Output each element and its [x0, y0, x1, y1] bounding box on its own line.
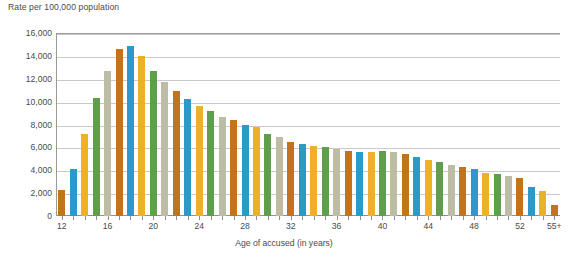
bar — [368, 152, 375, 216]
bar — [196, 106, 203, 216]
x-axis-tick-label: 55+ — [547, 221, 562, 231]
bar — [207, 111, 214, 216]
bar — [402, 154, 409, 216]
x-axis-tick — [153, 216, 154, 220]
bar — [104, 71, 111, 216]
bar — [413, 157, 420, 216]
bar-series — [56, 33, 560, 216]
x-axis-tick — [314, 216, 315, 220]
x-axis-tick — [497, 216, 498, 220]
x-axis-tick-label: 52 — [515, 221, 525, 231]
y-axis-tick-label: 4,000 — [30, 165, 52, 175]
x-axis-tick — [360, 216, 361, 220]
x-axis-tick — [234, 216, 235, 220]
x-axis-tick — [325, 216, 326, 220]
x-axis-tick — [199, 216, 200, 220]
x-axis-tick — [73, 216, 74, 220]
x-axis-tick-label: 36 — [332, 221, 342, 231]
bar — [425, 160, 432, 216]
x-axis-tick — [142, 216, 143, 220]
x-axis-tick — [291, 216, 292, 220]
x-axis-tick — [96, 216, 97, 220]
x-axis-tick — [474, 216, 475, 220]
bar — [93, 98, 100, 216]
bar — [264, 134, 271, 216]
bar — [173, 91, 180, 216]
bar — [356, 152, 363, 216]
bar — [161, 82, 168, 216]
bar — [551, 205, 558, 216]
x-axis-tick — [245, 216, 246, 220]
x-axis-tick — [543, 216, 544, 220]
x-axis-tick — [417, 216, 418, 220]
x-axis-tick — [211, 216, 212, 220]
x-axis-tick-label: 40 — [378, 221, 388, 231]
x-axis-ticks — [56, 216, 560, 220]
bar — [184, 99, 191, 216]
x-axis-tick-label: 48 — [469, 221, 479, 231]
x-axis-tick — [302, 216, 303, 220]
y-axis-tick-label: 8,000 — [30, 120, 52, 130]
x-axis-tick — [394, 216, 395, 220]
x-axis-tick-label: 20 — [149, 221, 159, 231]
x-axis-tick — [405, 216, 406, 220]
bar — [333, 149, 340, 216]
x-axis-tick-label: 44 — [423, 221, 433, 231]
bar — [287, 142, 294, 216]
bar — [58, 190, 65, 216]
bar — [253, 127, 260, 216]
bar — [379, 151, 386, 216]
bar — [471, 169, 478, 216]
x-axis-tick — [348, 216, 349, 220]
bar — [299, 144, 306, 216]
x-axis-tick-label: 32 — [286, 221, 296, 231]
x-axis-tick — [428, 216, 429, 220]
y-axis-tick-label: 12,000 — [26, 74, 52, 84]
x-axis-tick — [165, 216, 166, 220]
bar — [127, 46, 134, 216]
x-axis-tick-label: 28 — [240, 221, 250, 231]
bar — [230, 120, 237, 216]
bar — [436, 162, 443, 216]
y-axis-tick-label: 2,000 — [30, 188, 52, 198]
x-axis-tick — [256, 216, 257, 220]
y-axis-title: Rate per 100,000 population — [8, 2, 119, 12]
y-axis-tick-label: 14,000 — [26, 51, 52, 61]
bar — [459, 167, 466, 216]
x-axis-tick — [130, 216, 131, 220]
x-axis-tick — [108, 216, 109, 220]
bar — [116, 49, 123, 216]
x-axis-tick — [371, 216, 372, 220]
y-axis-tick-labels: 02,0004,0006,0008,00010,00012,00014,0001… — [0, 33, 52, 216]
x-axis-tick — [222, 216, 223, 220]
x-axis-title: Age of accused (in years) — [0, 238, 568, 248]
y-axis-tick-label: 6,000 — [30, 142, 52, 152]
bar — [505, 176, 512, 216]
y-axis-tick-label: 0 — [47, 211, 52, 221]
x-axis-tick — [451, 216, 452, 220]
y-axis-tick-label: 16,000 — [26, 28, 52, 38]
x-axis-tick — [463, 216, 464, 220]
x-axis-tick — [337, 216, 338, 220]
bar — [70, 169, 77, 216]
bar — [482, 173, 489, 216]
bar — [219, 117, 226, 217]
x-axis-tick — [85, 216, 86, 220]
bar — [448, 165, 455, 216]
x-axis-tick-labels: 121620242832364044485255+ — [56, 221, 560, 235]
x-axis-tick — [279, 216, 280, 220]
x-axis-tick — [119, 216, 120, 220]
bar — [516, 178, 523, 216]
bar — [390, 152, 397, 216]
bar-chart: Rate per 100,000 population 02,0004,0006… — [0, 0, 568, 261]
bar — [276, 137, 283, 216]
x-axis-tick — [531, 216, 532, 220]
bar — [322, 147, 329, 216]
bar — [345, 151, 352, 216]
x-axis-tick-label: 16 — [103, 221, 113, 231]
x-axis-tick — [382, 216, 383, 220]
bar — [310, 146, 317, 216]
bar — [494, 174, 501, 216]
x-axis-tick — [554, 216, 555, 220]
x-axis-tick-label: 24 — [194, 221, 204, 231]
